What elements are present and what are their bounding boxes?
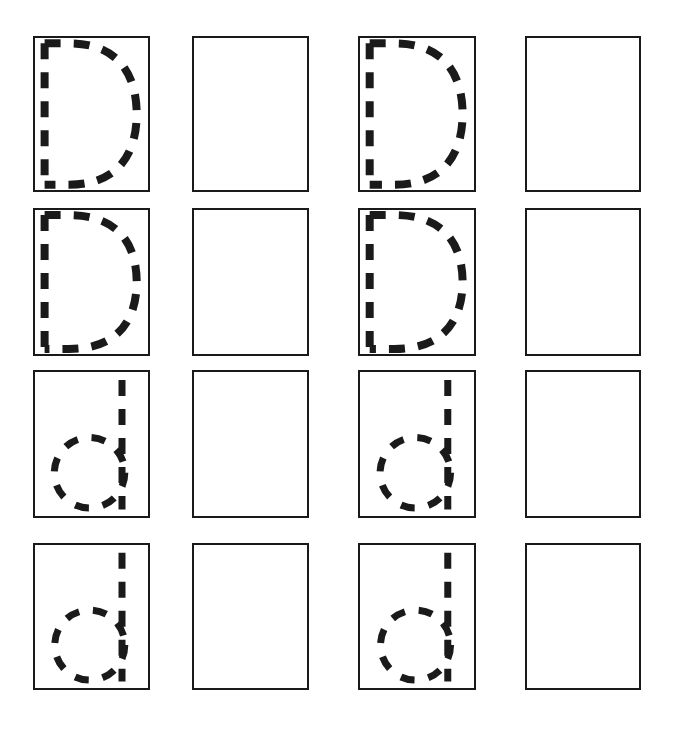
practice-box-r1-c4[interactable]: [525, 36, 641, 192]
lowercase-d-glyph: [360, 545, 474, 688]
uppercase-d-bowl-dashes: [45, 43, 137, 184]
lowercase-d-glyph: [35, 545, 148, 688]
practice-box-r4-c4[interactable]: [525, 543, 641, 690]
uppercase-d-bowl-dashes: [45, 215, 137, 349]
uppercase-d-bowl-dashes: [370, 215, 463, 349]
practice-box-r4-c2[interactable]: [192, 543, 309, 690]
practice-box-r3-c2[interactable]: [192, 370, 309, 518]
practice-box-r2-c4[interactable]: [525, 208, 641, 356]
lowercase-d-bowl-dashes: [55, 610, 125, 680]
practice-box-r3-c4[interactable]: [525, 370, 641, 518]
uppercase-d-glyph: [360, 38, 474, 190]
uppercase-d-glyph: [35, 38, 148, 190]
tracing-worksheet-grid: [0, 0, 674, 732]
trace-letter-box-r3-c3[interactable]: [358, 370, 476, 518]
lowercase-d-bowl-dashes: [380, 438, 451, 509]
trace-letter-box-r4-c1[interactable]: [33, 543, 150, 690]
trace-letter-box-r2-c3[interactable]: [358, 208, 476, 356]
uppercase-d-bowl-dashes: [370, 43, 463, 184]
lowercase-d-glyph: [35, 372, 148, 516]
trace-letter-box-r1-c1[interactable]: [33, 36, 150, 192]
lowercase-d-bowl-dashes: [381, 610, 451, 680]
lowercase-d-bowl-dashes: [54, 438, 125, 509]
practice-box-r1-c2[interactable]: [192, 36, 309, 192]
uppercase-d-glyph: [360, 210, 474, 354]
trace-letter-box-r1-c3[interactable]: [358, 36, 476, 192]
lowercase-d-glyph: [360, 372, 474, 516]
trace-letter-box-r2-c1[interactable]: [33, 208, 150, 356]
trace-letter-box-r3-c1[interactable]: [33, 370, 150, 518]
trace-letter-box-r4-c3[interactable]: [358, 543, 476, 690]
practice-box-r2-c2[interactable]: [192, 208, 309, 356]
uppercase-d-glyph: [35, 210, 148, 354]
